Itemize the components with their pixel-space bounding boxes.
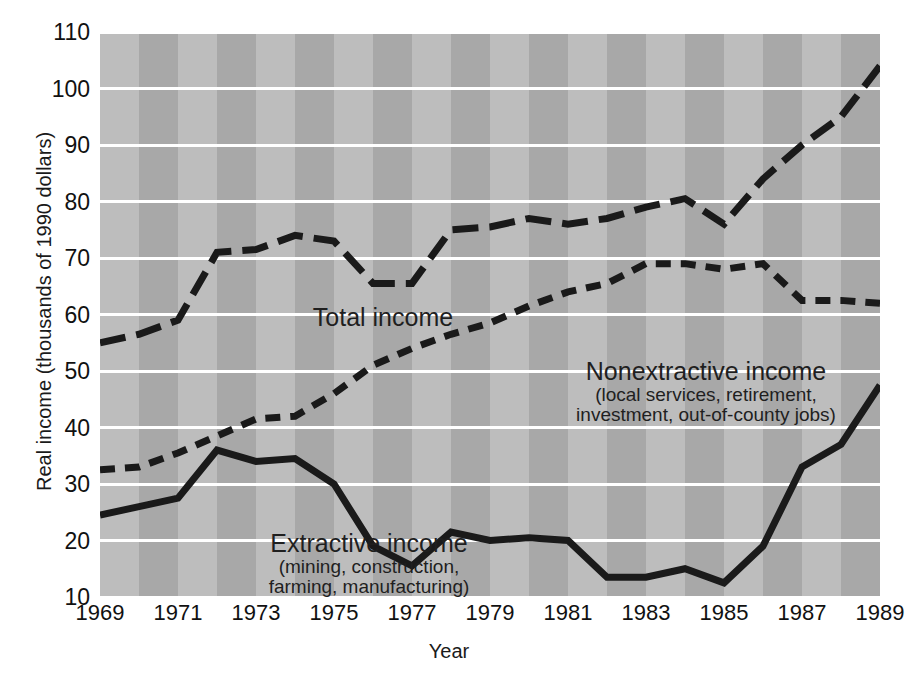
x-tick-label: 1981 — [523, 602, 613, 624]
x-tick-label: 1989 — [835, 602, 909, 624]
x-tick-label: 1975 — [289, 602, 379, 624]
x-axis-title: Year — [0, 640, 898, 663]
x-tick-label: 1977 — [367, 602, 457, 624]
x-tick-label: 1983 — [601, 602, 691, 624]
x-tick-label: 1979 — [445, 602, 535, 624]
x-tick-label: 1973 — [211, 602, 301, 624]
x-tick-label: 1987 — [757, 602, 847, 624]
x-tick-label: 1971 — [133, 602, 223, 624]
x-tick-label: 1969 — [55, 602, 145, 624]
x-tick-label: 1985 — [679, 602, 769, 624]
